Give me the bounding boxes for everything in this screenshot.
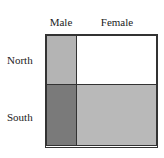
cell-north-female: [76, 35, 157, 85]
row-label-north: North: [7, 54, 33, 66]
cell-north-male: [46, 35, 77, 85]
column-label-female: Female: [101, 16, 133, 28]
column-label-male: Male: [50, 16, 73, 28]
mosaic-plot: [45, 34, 158, 148]
cell-south-male: [46, 84, 77, 146]
cell-south-female: [76, 84, 157, 146]
row-label-south: South: [7, 111, 33, 123]
